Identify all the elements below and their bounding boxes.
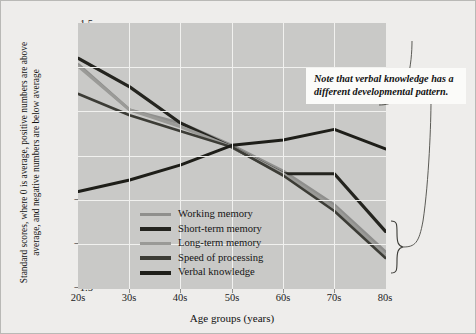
legend-swatch-working-memory (140, 213, 171, 216)
gridline-vertical (334, 23, 335, 289)
legend-item-working-memory[interactable]: Working memory (140, 207, 263, 222)
gridline-vertical (129, 23, 130, 289)
legend-swatch-speed-of-processing (140, 256, 171, 260)
x-tick-label: 80s (365, 293, 405, 304)
x-axis-label: Age groups (years) (78, 312, 386, 324)
legend-swatch-short-term-memory (140, 227, 171, 231)
legend-item-long-term-memory[interactable]: Long-term memory (140, 236, 263, 251)
legend-label-long-term-memory: Long-term memory (178, 238, 261, 249)
x-tick-label: 30s (109, 293, 149, 304)
legend-label-speed-of-processing: Speed of processing (178, 253, 263, 264)
legend-item-verbal-knowledge[interactable]: Verbal knowledge (140, 265, 263, 280)
x-axis-tick (129, 289, 130, 293)
x-tick-label: 50s (212, 293, 252, 304)
legend-label-verbal-knowledge: Verbal knowledge (178, 267, 255, 278)
x-axis-tick (180, 289, 181, 293)
x-axis-tick (283, 289, 284, 293)
legend-label-short-term-memory: Short-term memory (178, 224, 262, 235)
legend: Working memory Short-term memory Long-te… (140, 207, 263, 280)
legend-item-short-term-memory[interactable]: Short-term memory (140, 222, 263, 237)
legend-swatch-verbal-knowledge (140, 271, 171, 275)
x-tick-label: 40s (160, 293, 200, 304)
x-axis-tick (334, 289, 335, 293)
legend-swatch-long-term-memory (140, 242, 171, 245)
x-axis-tick (232, 289, 233, 293)
y-axis-label: Standard scores, where 0 is average, pos… (19, 28, 42, 298)
legend-label-working-memory: Working memory (178, 209, 253, 220)
x-tick-label: 70s (314, 293, 354, 304)
gridline-vertical (283, 23, 284, 289)
figure-container: Standard scores, where 0 is average, pos… (0, 0, 476, 334)
annotation-note: Note that verbal knowledge has a differe… (306, 68, 466, 104)
x-tick-label: 20s (58, 293, 98, 304)
x-tick-label: 60s (263, 293, 303, 304)
legend-item-speed-of-processing[interactable]: Speed of processing (140, 251, 263, 266)
